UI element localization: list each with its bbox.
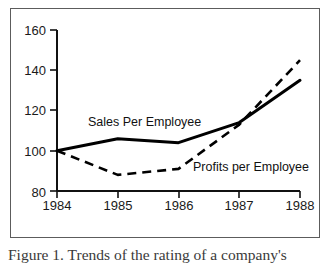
y-tick-label-140: 140 [24, 63, 46, 78]
y-tick-label-120: 120 [24, 103, 46, 118]
x-tick-label-1985: 1985 [104, 198, 133, 213]
x-axis-ticks [57, 191, 300, 198]
series-label-sales-per-employee: Sales Per Employee [88, 115, 201, 129]
series-label-profits-per-employee: Profits per Employee [193, 160, 309, 174]
figure-caption: Figure 1. Trends of the rating of a comp… [8, 246, 333, 263]
x-tick-label-1984: 1984 [43, 198, 72, 213]
x-tick-label-1988: 1988 [286, 198, 315, 213]
x-axis-tick-labels: 1984 1985 1986 1987 1988 [43, 198, 315, 213]
y-tick-label-100: 100 [24, 144, 46, 159]
line-chart: 160 140 120 100 80 1984 1985 1986 1987 1… [10, 8, 320, 238]
x-tick-label-1987: 1987 [225, 198, 254, 213]
y-axis-tick-labels: 160 140 120 100 80 [24, 23, 46, 200]
y-tick-label-160: 160 [24, 23, 46, 38]
x-tick-label-1986: 1986 [165, 198, 194, 213]
y-axis-ticks [50, 30, 57, 191]
